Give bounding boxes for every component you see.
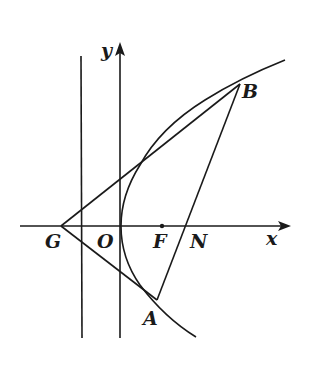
label-x: x [265, 227, 278, 249]
focus-point [160, 224, 164, 228]
label-y: y [100, 39, 114, 61]
label-N: N [189, 230, 208, 252]
label-B: B [241, 80, 258, 102]
parabola-diagram: y x B G O F N A [0, 0, 313, 369]
label-O: O [97, 230, 114, 252]
label-F: F [152, 230, 168, 252]
vertical-line [81, 56, 82, 338]
parabola-curve [121, 60, 285, 337]
label-G: G [45, 230, 61, 252]
label-A: A [141, 307, 158, 329]
